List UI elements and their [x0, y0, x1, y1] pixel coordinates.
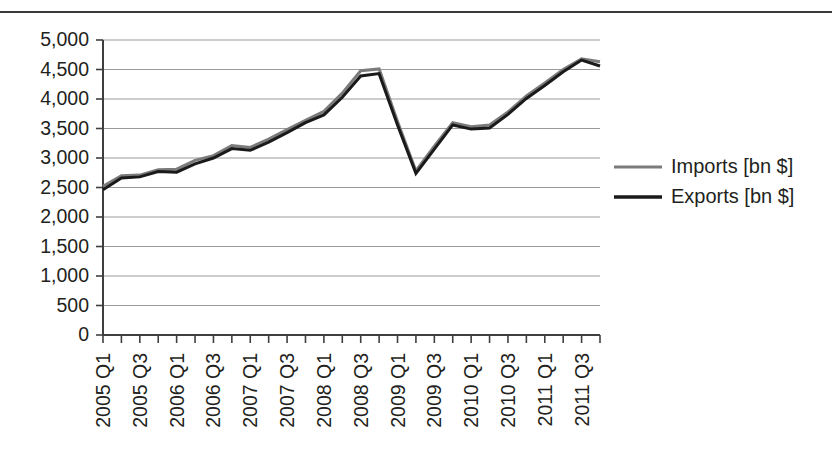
series-line-imports	[103, 59, 600, 186]
x-axis-tick-label: 2007 Q3	[276, 353, 298, 428]
y-axis-tick-label: 4,500	[40, 58, 89, 80]
y-gridlines: 05001,0001,5002,0002,5003,0003,5004,0004…	[40, 28, 600, 345]
y-axis-tick-label: 2,000	[40, 205, 89, 227]
y-axis-tick-label: 0	[78, 323, 89, 345]
x-axis-tick-label: 2008 Q1	[313, 353, 335, 428]
x-axis-tick-label: 2011 Q1	[534, 353, 556, 426]
x-axis-tick-label: 2009 Q1	[387, 353, 409, 428]
x-axis-tick-label: 2009 Q3	[423, 353, 445, 428]
x-axis-ticks: 2005 Q12005 Q32006 Q12006 Q32007 Q12007 …	[92, 335, 600, 428]
legend-label: Imports [bn $]	[671, 155, 793, 177]
x-axis-tick-label: 2007 Q1	[239, 353, 261, 428]
y-axis-tick-label: 2,500	[40, 176, 89, 198]
chart-page: 05001,0001,5002,0002,5003,0003,5004,0004…	[0, 0, 832, 459]
y-axis-tick-label: 3,500	[40, 117, 89, 139]
x-axis-tick-label: 2008 Q3	[350, 353, 372, 428]
x-axis-tick-label: 2011 Q3	[571, 353, 593, 426]
x-axis-tick-label: 2010 Q1	[460, 353, 482, 428]
legend-label: Exports [bn $]	[671, 185, 794, 207]
y-axis-tick-label: 4,000	[40, 87, 89, 109]
line-chart-figure: 05001,0001,5002,0002,5003,0003,5004,0004…	[0, 14, 832, 459]
x-axis-tick-label: 2010 Q3	[497, 353, 519, 428]
y-axis-tick-label: 500	[56, 294, 89, 316]
chart-canvas: 05001,0001,5002,0002,5003,0003,5004,0004…	[0, 14, 832, 459]
chart-legend: Imports [bn $]Exports [bn $]	[614, 155, 794, 207]
x-axis-tick-label: 2005 Q3	[129, 353, 151, 428]
x-axis-tick-label: 2006 Q1	[166, 353, 188, 428]
y-axis-tick-label: 3,000	[40, 146, 89, 168]
x-axis-tick-label: 2006 Q3	[202, 353, 224, 428]
page-top-rule	[0, 11, 832, 13]
y-axis-tick-label: 1,000	[40, 264, 89, 286]
data-series-group	[103, 59, 600, 190]
x-axis-tick-label: 2005 Q1	[92, 353, 114, 428]
y-axis-tick-label: 1,500	[40, 235, 89, 257]
y-axis-tick-label: 5,000	[40, 28, 89, 50]
